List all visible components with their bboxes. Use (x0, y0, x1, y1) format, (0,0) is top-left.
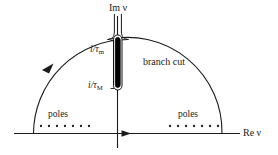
branch-point-lower-label: i/τM (88, 81, 103, 91)
keyhole-right-edge (121, 14, 128, 40)
real-axis-label-prefix: Re (243, 127, 254, 138)
real-axis-direction-arrow (122, 130, 132, 137)
branch-point-lower-subscript: M (97, 84, 103, 91)
imaginary-axis-label: Im ν (109, 3, 127, 13)
poles-left-markers (40, 125, 90, 127)
keyhole-left-edge (108, 14, 115, 40)
branch-cut-label: branch cut (143, 57, 185, 67)
real-axis-label-symbol: ν (257, 127, 262, 138)
poles-right-label: poles (178, 110, 198, 120)
branch-point-upper-subscript: m (99, 48, 104, 55)
real-axis-label: Re ν (243, 128, 261, 138)
poles-left-label: poles (48, 110, 68, 120)
branch-point-upper-label: i/τm (90, 45, 104, 55)
contour-diagram-canvas (0, 0, 278, 155)
poles-right-markers (169, 125, 219, 127)
contour-arc-right (108, 37, 223, 133)
complex-plane-contour-figure: Im ν Re ν branch cut i/τm i/τM poles pol… (0, 0, 278, 155)
imaginary-axis-label-prefix: Im (109, 2, 120, 13)
imaginary-axis-label-symbol: ν (123, 2, 128, 13)
branch-cut-bar (115, 38, 120, 88)
contour-direction-arrow (42, 64, 54, 74)
